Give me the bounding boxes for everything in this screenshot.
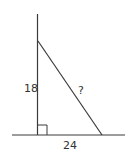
triangle-diagram: 18 ? 24 xyxy=(0,0,132,161)
hypotenuse-line xyxy=(38,41,102,135)
hypotenuse-label: ? xyxy=(78,84,84,97)
vertical-leg-label: 18 xyxy=(24,82,38,95)
right-angle-marker xyxy=(38,125,48,135)
horizontal-leg-label: 24 xyxy=(63,139,77,152)
